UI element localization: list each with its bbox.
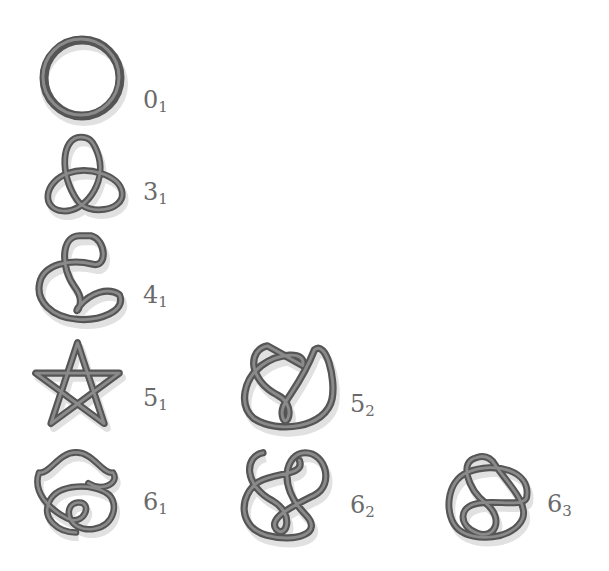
crossing-number: 3 bbox=[143, 178, 158, 206]
knot-index: 1 bbox=[158, 190, 168, 208]
knot-index: 1 bbox=[158, 98, 168, 116]
knot-6-2-icon bbox=[238, 446, 334, 544]
knot-5-2-icon bbox=[238, 340, 336, 438]
knot-6-1-icon bbox=[32, 446, 120, 538]
knot-4-1-icon bbox=[32, 230, 127, 325]
knot-label-5-2: 52 bbox=[350, 392, 375, 416]
crossing-number: 4 bbox=[143, 281, 158, 309]
knot-index: 1 bbox=[158, 500, 168, 518]
knot-0-1-icon bbox=[32, 28, 132, 128]
knot-label-6-3: 63 bbox=[547, 492, 572, 516]
knot-label-6-1: 61 bbox=[143, 490, 168, 514]
knot-3-1-icon bbox=[34, 130, 124, 220]
knot-index: 3 bbox=[562, 502, 572, 520]
knot-label-5-1: 51 bbox=[143, 386, 168, 410]
knot-table: 01 31 41 51 bbox=[0, 0, 609, 571]
knot-5-1-icon bbox=[30, 338, 125, 433]
crossing-number: 5 bbox=[143, 384, 158, 412]
knot-index: 2 bbox=[365, 402, 375, 420]
knot-label-6-2: 62 bbox=[350, 493, 375, 517]
crossing-number: 5 bbox=[350, 390, 365, 418]
knot-label-0-1: 01 bbox=[143, 88, 168, 112]
crossing-number: 0 bbox=[143, 86, 158, 114]
knot-label-3-1: 31 bbox=[143, 180, 168, 204]
crossing-number: 6 bbox=[350, 491, 365, 519]
knot-6-3-icon bbox=[440, 452, 532, 544]
crossing-number: 6 bbox=[547, 490, 562, 518]
knot-label-4-1: 41 bbox=[143, 283, 168, 307]
crossing-number: 6 bbox=[143, 488, 158, 516]
knot-index: 2 bbox=[365, 503, 375, 521]
knot-index: 1 bbox=[158, 293, 168, 311]
knot-index: 1 bbox=[158, 396, 168, 414]
